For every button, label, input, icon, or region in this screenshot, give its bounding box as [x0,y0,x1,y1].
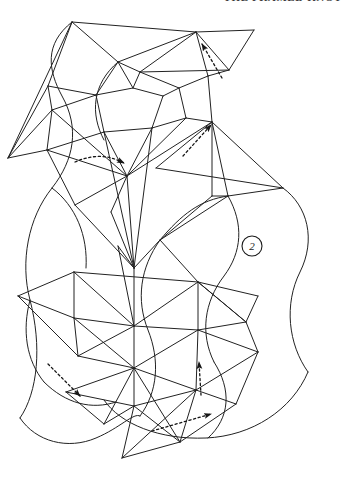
arrow-lower-right [199,362,201,395]
arrow-lower-left [48,364,80,396]
lower-polyhedron-lattice [18,240,258,458]
figure-drawing: 2 [0,0,348,480]
upper-polyhedron-body [8,22,283,268]
curved-strands [20,22,308,444]
upper-polyhedron-cap [72,22,254,88]
figure-number-label: 2 [249,240,255,252]
arrow-top-right [202,44,222,78]
arrow-mid-center [183,125,211,156]
figure-page: THE FRAMED KNOT [0,0,348,480]
